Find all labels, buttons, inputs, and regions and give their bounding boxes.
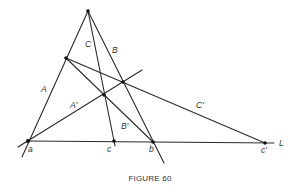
point-on-C: [102, 93, 106, 97]
label-C-prime: C': [196, 100, 204, 110]
label-B: B: [112, 45, 118, 55]
label-c: c: [107, 144, 112, 154]
point-apex: [86, 9, 90, 13]
line-A: [22, 11, 88, 157]
line-C: [88, 11, 115, 146]
label-a: a: [28, 144, 33, 154]
point-c: [112, 139, 116, 143]
label-B-prime: B': [121, 121, 129, 131]
label-C: C: [85, 39, 92, 49]
point-on-B: [121, 80, 125, 84]
label-c-prime: c': [261, 145, 267, 155]
line-B-prime: [66, 58, 153, 142]
projective-geometry-diagram: A B C A' B' C' a c b c' L: [0, 0, 300, 192]
line-L: [28, 141, 274, 143]
point-on-A: [64, 56, 68, 60]
label-A-prime: A': [69, 100, 78, 110]
label-L: L: [279, 138, 284, 148]
label-b: b: [149, 144, 154, 154]
line-B: [88, 11, 164, 163]
line-C-prime: [66, 58, 265, 143]
label-A: A: [40, 84, 47, 94]
point-a: [26, 139, 30, 143]
figure-caption: FIGURE 60: [0, 174, 300, 183]
